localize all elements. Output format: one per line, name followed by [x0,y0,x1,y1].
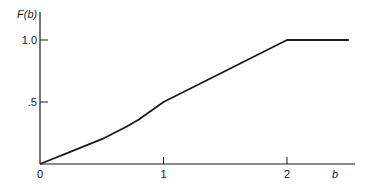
x-axis-label: b [332,168,338,180]
cdf-chart: 012.51.0 F(b) b [0,0,368,185]
y-tick-label: 1.0 [22,34,37,46]
y-tick-label: .5 [28,96,37,108]
series-line-F(b) [40,40,349,164]
x-tick-label: 2 [284,168,290,180]
x-tick-label: 0 [37,168,43,180]
y-axis-label: F(b) [17,8,38,20]
x-tick-label: 1 [160,168,166,180]
